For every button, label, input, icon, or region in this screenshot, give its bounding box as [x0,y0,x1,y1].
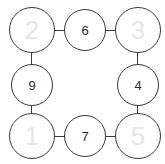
node-middle-right[interactable]: 4 [117,64,159,106]
node-top-right-label: 3 [131,17,145,43]
node-top-left[interactable]: 2 [9,7,55,53]
node-bottom-left[interactable]: 1 [9,113,55,159]
node-middle-left[interactable]: 9 [11,64,53,106]
node-bottom-right-label: 5 [131,123,145,149]
node-middle-left-label: 9 [28,79,35,92]
node-bottom-left-label: 1 [25,123,39,149]
node-middle-right-label: 4 [134,79,141,92]
node-bottom-right[interactable]: 5 [115,113,161,159]
node-bottom-middle-label: 7 [81,130,88,143]
node-bottom-middle[interactable]: 7 [64,115,106,157]
node-top-right[interactable]: 3 [115,7,161,53]
puzzle-diagram: 2 6 3 9 4 1 7 5 [0,0,165,164]
node-top-middle-label: 6 [81,24,88,37]
node-top-left-label: 2 [25,17,39,43]
node-top-middle[interactable]: 6 [64,9,106,51]
